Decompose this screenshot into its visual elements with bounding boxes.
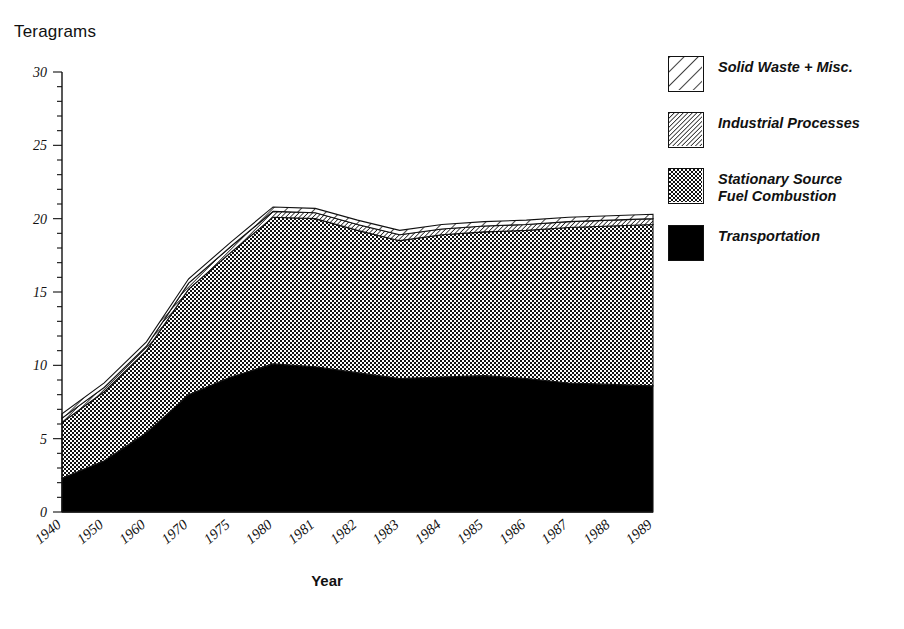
x-tick-label: 1980 xyxy=(242,516,275,547)
x-tick-label: 1987 xyxy=(538,516,571,547)
legend-label-solid-waste: Solid Waste + Misc. xyxy=(718,56,853,76)
legend-label-industrial-processes: Industrial Processes xyxy=(718,112,860,132)
x-tick-label: 1960 xyxy=(116,516,149,547)
y-tick-label: 15 xyxy=(33,285,47,300)
legend-label-transportation: Transportation xyxy=(718,225,820,245)
y-tick-label: 25 xyxy=(33,138,47,153)
legend-swatch-industrial-processes xyxy=(668,112,704,148)
y-tick-label: 20 xyxy=(33,212,47,227)
x-tick-label: 1984 xyxy=(411,516,443,547)
x-tick-label: 1975 xyxy=(200,516,232,547)
y-tick-label: 10 xyxy=(33,358,47,373)
legend-item-industrial-processes[interactable]: Industrial Processes xyxy=(668,112,898,148)
legend-swatch-solid-waste xyxy=(668,56,704,92)
x-tick-label: 1988 xyxy=(580,516,613,547)
legend-item-solid-waste[interactable]: Solid Waste + Misc. xyxy=(668,56,898,92)
legend-swatch-transportation xyxy=(668,225,704,261)
x-tick-label: 1981 xyxy=(285,516,317,547)
x-tick-label: 1940 xyxy=(31,516,64,547)
x-axis-title: Year xyxy=(0,572,654,589)
x-tick-label: 1985 xyxy=(454,516,486,547)
legend-item-stationary-source[interactable]: Stationary Source Fuel Combustion xyxy=(668,168,898,205)
x-tick-label: 1986 xyxy=(496,516,529,547)
x-tick-label-group: 1940195019601970197519801981198219831984… xyxy=(31,516,655,547)
y-tick-label: 30 xyxy=(32,65,47,80)
x-tick-label: 1970 xyxy=(158,516,191,547)
legend-swatch-stationary-source xyxy=(668,168,704,204)
y-tick-group: 051015202530 xyxy=(32,65,62,520)
x-tick-label: 1982 xyxy=(327,516,359,547)
x-tick-label: 1983 xyxy=(369,516,401,547)
chart-legend: Solid Waste + Misc. Industrial Processes… xyxy=(668,56,898,281)
area-series-group xyxy=(62,207,653,512)
chart-root: Teragrams xyxy=(0,0,904,629)
y-tick-label: 5 xyxy=(40,432,47,447)
x-tick-label: 1950 xyxy=(74,516,107,547)
x-tick-label: 1989 xyxy=(622,516,655,547)
legend-label-stationary-source: Stationary Source Fuel Combustion xyxy=(718,168,842,205)
legend-item-transportation[interactable]: Transportation xyxy=(668,225,898,261)
y-tick-label: 0 xyxy=(40,505,47,520)
